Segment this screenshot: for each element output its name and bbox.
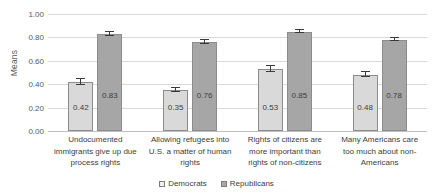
legend-item-label: Democrats	[168, 179, 207, 188]
legend-swatch-icon	[221, 181, 227, 187]
x-axis-category-label: Rights of citizens aremore important tha…	[238, 134, 333, 169]
bar-value-label: 0.35	[164, 103, 187, 112]
x-axis-category-label-line: rights	[143, 157, 238, 169]
error-bar-cap	[266, 71, 275, 72]
error-bar-cap	[390, 37, 399, 38]
x-axis-category-label: Allowing refugees intoU.S. a matter of h…	[143, 134, 238, 169]
x-axis-category-label-line: U.S. a matter of human	[143, 146, 238, 158]
chart-legend: DemocratsRepublicans	[0, 179, 433, 188]
plot-area: 0.420.830.350.760.530.850.480.78	[48, 14, 427, 131]
y-axis-tick-label: 0.80	[8, 33, 44, 42]
error-bar-cap	[105, 35, 114, 36]
bar-republicans[interactable]: 0.83	[97, 34, 122, 131]
x-axis-category-label: Many Americans caretoo much about non-Am…	[332, 134, 427, 169]
bar-democrats[interactable]: 0.35	[163, 90, 188, 131]
y-axis-tick-label: 0.40	[8, 80, 44, 89]
x-axis-category-labels: Undocumentedimmigrants give up dueproces…	[48, 134, 427, 176]
x-axis-category-label: Undocumentedimmigrants give up dueproces…	[48, 134, 143, 169]
y-axis-tick-labels: 1.000.800.600.400.200.00	[8, 14, 44, 131]
error-bar-cap	[76, 78, 85, 79]
bar-value-label: 0.76	[193, 91, 216, 100]
bar-democrats[interactable]: 0.48	[353, 75, 378, 131]
error-bar-cap	[266, 65, 275, 66]
error-bar-cap	[105, 31, 114, 32]
axis-baseline	[48, 131, 427, 132]
y-axis-tick-label: 1.00	[8, 10, 44, 19]
bar-republicans[interactable]: 0.85	[287, 32, 312, 131]
y-axis-tick-label: 0.00	[8, 127, 44, 136]
error-bar-cap	[361, 76, 370, 77]
error-bar-cap	[76, 84, 85, 85]
x-axis-category-label-line: too much about non-	[332, 146, 427, 158]
x-axis-category-label-line: Many Americans care	[332, 134, 427, 146]
error-bar-cap	[171, 87, 180, 88]
y-axis-tick-label: 0.20	[8, 103, 44, 112]
x-axis-category-label-line: Allowing refugees into	[143, 134, 238, 146]
error-bar-cap	[200, 43, 209, 44]
x-axis-category-label-line: more important than	[238, 146, 333, 158]
legend-item-label: Republicans	[230, 179, 274, 188]
error-bar-cap	[200, 39, 209, 40]
x-axis-category-label-line: immigrants give up due	[48, 146, 143, 158]
bar-value-label: 0.85	[288, 91, 311, 100]
bar-chart: Means 1.000.800.600.400.200.00 0.420.830…	[0, 0, 433, 196]
bar-group: 0.350.76	[143, 14, 238, 131]
legend-swatch-icon	[159, 181, 165, 187]
error-bar-cap	[295, 32, 304, 33]
bar-group: 0.480.78	[332, 14, 427, 131]
error-bar-cap	[295, 29, 304, 30]
bar-value-label: 0.78	[383, 91, 406, 100]
bar-group: 0.530.85	[238, 14, 333, 131]
y-axis-tick-label: 0.60	[8, 56, 44, 65]
x-axis-category-label-line: Rights of citizens are	[238, 134, 333, 146]
bar-value-label: 0.83	[98, 91, 121, 100]
bar-value-label: 0.48	[354, 103, 377, 112]
x-axis-category-label-line: Undocumented	[48, 134, 143, 146]
x-axis-category-label-line: process rights	[48, 157, 143, 169]
bar-republicans[interactable]: 0.76	[192, 42, 217, 131]
error-bar-cap	[361, 71, 370, 72]
legend-item-republicans[interactable]: Republicans	[221, 179, 274, 188]
bar-value-label: 0.53	[259, 103, 282, 112]
x-axis-category-label-line: rights of non-citizens	[238, 157, 333, 169]
bar-value-label: 0.42	[69, 103, 92, 112]
top-clipped-artifact-text	[423, 0, 427, 4]
bar-republicans[interactable]: 0.78	[382, 40, 407, 131]
legend-item-democrats[interactable]: Democrats	[159, 179, 207, 188]
bar-group: 0.420.83	[48, 14, 143, 131]
x-axis-category-label-line: Americans	[332, 157, 427, 169]
bar-democrats[interactable]: 0.53	[258, 69, 283, 131]
error-bar-cap	[390, 40, 399, 41]
error-bar-cap	[171, 91, 180, 92]
bar-democrats[interactable]: 0.42	[68, 82, 93, 131]
